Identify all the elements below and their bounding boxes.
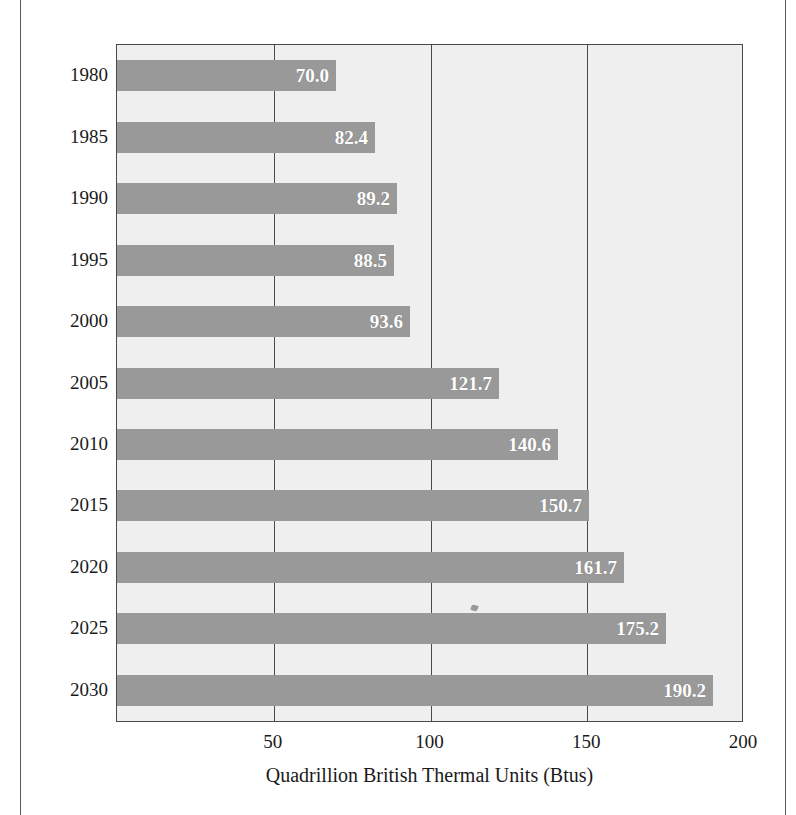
page-border-right [785, 0, 786, 815]
bar-value-label-2010: 140.6 [508, 429, 551, 460]
category-label-2015: 2015 [40, 489, 108, 520]
category-label-1995: 1995 [40, 244, 108, 275]
x-axis-title: Quadrillion British Thermal Units (Btus) [116, 764, 743, 787]
x-tick-label-200: 200 [713, 731, 773, 753]
bar-2020 [117, 552, 624, 583]
bar-row: 93.6 [117, 306, 410, 337]
bar-row: 150.7 [117, 490, 589, 521]
bar-value-label-1985: 82.4 [335, 122, 368, 153]
category-label-2030: 2030 [40, 674, 108, 705]
category-label-1990: 1990 [40, 182, 108, 213]
bar-value-label-1980: 70.0 [296, 60, 329, 91]
bar-row: 190.2 [117, 675, 713, 706]
page-border-left [20, 0, 21, 815]
bar-1990 [117, 183, 397, 214]
category-label-2025: 2025 [40, 612, 108, 643]
bar-2030 [117, 675, 713, 706]
bar-value-label-2015: 150.7 [539, 490, 582, 521]
category-label-1980: 1980 [40, 59, 108, 90]
bar-value-label-2030: 190.2 [663, 675, 706, 706]
bar-value-label-1990: 89.2 [357, 183, 390, 214]
chart-title [116, 0, 744, 7]
bar-2025 [117, 613, 666, 644]
category-label-2010: 2010 [40, 428, 108, 459]
x-tick-label-100: 100 [400, 731, 460, 753]
bar-value-label-2025: 175.2 [616, 613, 659, 644]
bar-row: 161.7 [117, 552, 624, 583]
plot-area: 70.082.489.288.593.6121.7140.6150.7161.7… [116, 44, 743, 722]
bar-2010 [117, 429, 558, 460]
category-label-2020: 2020 [40, 551, 108, 582]
bar-2015 [117, 490, 589, 521]
bar-row: 70.0 [117, 60, 336, 91]
category-label-1985: 1985 [40, 121, 108, 152]
x-tick-label-150: 150 [556, 731, 616, 753]
bar-value-label-2005: 121.7 [449, 368, 492, 399]
bar-value-label-2000: 93.6 [370, 306, 403, 337]
bar-2000 [117, 306, 410, 337]
bar-row: 88.5 [117, 245, 394, 276]
bar-row: 121.7 [117, 368, 499, 399]
category-label-2005: 2005 [40, 367, 108, 398]
x-tick-label-50: 50 [243, 731, 303, 753]
bar-row: 175.2 [117, 613, 666, 644]
bar-row: 89.2 [117, 183, 397, 214]
bar-1995 [117, 245, 394, 276]
bar-row: 82.4 [117, 122, 375, 153]
category-label-2000: 2000 [40, 305, 108, 336]
bar-2005 [117, 368, 499, 399]
bar-row: 140.6 [117, 429, 558, 460]
bar-value-label-2020: 161.7 [574, 552, 617, 583]
bar-value-label-1995: 88.5 [354, 245, 387, 276]
